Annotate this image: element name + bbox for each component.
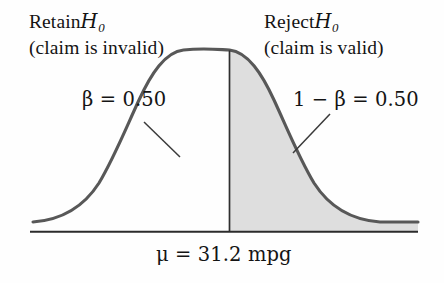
reject-subtitle: (claim is valid) bbox=[264, 36, 384, 59]
power-leader-line bbox=[293, 114, 330, 153]
retain-h-subscript: 0 bbox=[98, 21, 105, 35]
mean-axis-label: μ = 31.2 mpg bbox=[156, 243, 292, 266]
reject-h-symbol: H bbox=[314, 10, 331, 33]
retain-heading-text: Retain bbox=[29, 11, 81, 32]
beta-annotation: β = 0.50 bbox=[82, 88, 166, 111]
beta-leader-line bbox=[144, 122, 180, 157]
normal-curve bbox=[33, 49, 418, 222]
reject-h-subscript: 0 bbox=[332, 21, 339, 35]
retain-h-symbol: H bbox=[81, 10, 98, 33]
retain-subtitle: (claim is invalid) bbox=[29, 36, 164, 59]
reject-region-header: RejectH0 (claim is valid) bbox=[264, 10, 384, 59]
power-annotation: 1 − β = 0.50 bbox=[293, 88, 419, 111]
power-curve-figure: RetainH0 (claim is invalid) RejectH0 (cl… bbox=[0, 0, 444, 283]
rejection-region-shading bbox=[230, 50, 419, 232]
retain-region-header: RetainH0 (claim is invalid) bbox=[29, 10, 164, 59]
reject-heading-text: Reject bbox=[264, 11, 314, 32]
